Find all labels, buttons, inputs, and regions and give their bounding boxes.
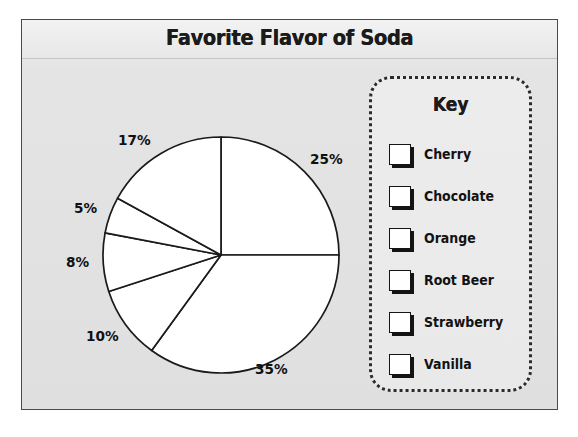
legend-item[interactable]: Cherry: [389, 133, 523, 175]
legend-item[interactable]: Strawberry: [389, 301, 523, 343]
legend-item[interactable]: Root Beer: [389, 259, 523, 301]
pie-slice-group: [103, 137, 339, 373]
legend-swatch-icon: [389, 144, 411, 165]
legend-heading: Key: [380, 93, 521, 115]
legend-key-box: Key CherryChocolateOrangeRoot BeerStrawb…: [369, 76, 532, 392]
legend-item-label: Cherry: [424, 147, 471, 162]
pie-data-label: 8%: [66, 254, 89, 270]
legend-item-label: Root Beer: [424, 273, 494, 288]
pie-data-label: 35%: [255, 361, 288, 377]
legend-item[interactable]: Orange: [389, 217, 523, 259]
pie-chart: 25%35%10%8%5%17%: [22, 20, 382, 411]
legend-item-label: Strawberry: [424, 315, 503, 330]
legend-swatch-icon: [389, 354, 411, 375]
legend-item[interactable]: Chocolate: [389, 175, 523, 217]
legend-swatch-icon: [389, 186, 411, 207]
pie-data-label: 10%: [86, 328, 119, 344]
pie-data-label: 17%: [118, 132, 151, 148]
poster-frame: Favorite Flavor of Soda 25%35%10%8%5%17%…: [21, 19, 558, 410]
legend-item-label: Chocolate: [424, 189, 494, 204]
legend-item-label: Vanilla: [424, 357, 472, 372]
legend-item[interactable]: Vanilla: [389, 343, 523, 385]
legend-item-label: Orange: [424, 231, 476, 246]
pie-data-label: 5%: [74, 200, 97, 216]
legend-swatch-icon: [389, 270, 411, 291]
legend-item-list: CherryChocolateOrangeRoot BeerStrawberry…: [389, 133, 523, 385]
legend-swatch-icon: [389, 228, 411, 249]
legend-swatch-icon: [389, 312, 411, 333]
pie-data-label: 25%: [310, 151, 343, 167]
